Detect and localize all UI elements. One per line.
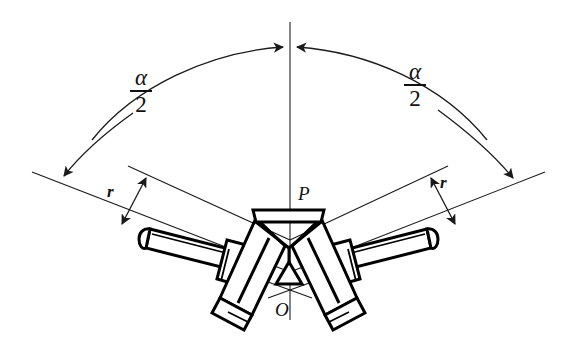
angle-left-numerator: α	[132, 66, 150, 90]
angle-right-numerator: α	[406, 60, 424, 84]
left-radius-arrow	[122, 178, 146, 224]
diagram-canvas: α 2 α 2 r r P O	[0, 0, 567, 358]
radius-label-right: r	[440, 174, 447, 191]
angle-label-left: α 2	[130, 66, 152, 116]
angle-label-right: α 2	[404, 60, 426, 110]
angle-left-denominator: 2	[132, 92, 150, 116]
point-label-p: P	[298, 184, 310, 203]
radius-label-left: r	[107, 183, 114, 200]
point-label-o: O	[275, 300, 289, 319]
angle-right-denominator: 2	[406, 86, 424, 110]
left-arc-dimension	[64, 47, 283, 176]
